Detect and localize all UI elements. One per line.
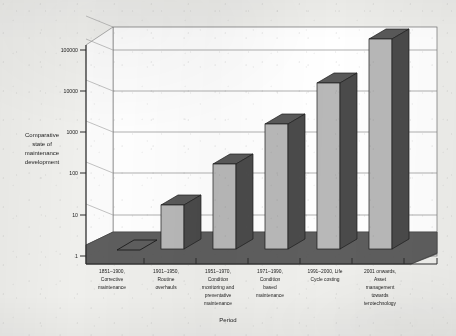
cat-label-line: 1951–1970, [205, 269, 231, 274]
y-tick-label: 100 [69, 170, 78, 176]
cat-label-line: Routine [158, 277, 175, 282]
x-axis-title-text: Period [219, 317, 236, 323]
cat-label-line: Cycle costing [310, 277, 339, 282]
y-tick-label: 10 [72, 212, 78, 218]
y-axis-title-line: state of [32, 141, 52, 147]
bar-column-5[interactable] [317, 73, 357, 249]
cat-label-line: Condition [260, 277, 281, 282]
y-axis-title-line: Comparative [25, 132, 60, 138]
y-tick-label: 1 [75, 253, 78, 259]
x-category-label-1: 1851–1900, Corrective maintenance [98, 269, 126, 290]
cat-label-line: towards [371, 293, 389, 298]
cat-label-line: preventative [205, 293, 232, 298]
bar-chart-3d: 100000 10000 1000 100 10 1 Comparative s… [0, 0, 456, 336]
cat-label-line: overhauls [155, 285, 177, 290]
y-tick-label: 100000 [61, 47, 78, 53]
cat-label-line: 1901–1950, [153, 269, 179, 274]
bar-column-6[interactable] [369, 29, 409, 249]
bar-column-4[interactable] [265, 114, 305, 249]
cat-label-line: maintenance [98, 285, 126, 290]
cat-label-line: management [366, 285, 395, 290]
cat-label-line: maintenance [204, 301, 232, 306]
chart-container: 100000 10000 1000 100 10 1 Comparative s… [0, 0, 456, 336]
cat-label-line: 1851–1900, [99, 269, 125, 274]
x-category-label-5: 1991–2000, Life Cycle costing [307, 269, 342, 282]
cat-label-line: monitoring and [202, 285, 235, 290]
bar-column-3[interactable] [213, 154, 253, 249]
cat-label-line: Asset [374, 277, 387, 282]
y-tick-label: 10000 [64, 88, 79, 94]
plot-side-wall [86, 27, 113, 256]
y-axis-title-line: maintenance [25, 150, 60, 156]
x-category-label-2: 1901–1950, Routine overhauls [153, 269, 179, 290]
x-category-label-4: 1971–1990, Condition based maintenance [256, 269, 284, 298]
cat-label-line: terotechnology [364, 301, 397, 306]
cat-label-line: 1991–2000, Life [307, 269, 342, 274]
y-tick-label: 1000 [66, 129, 78, 135]
cat-label-line: maintenance [256, 293, 284, 298]
x-axis-title: Period [219, 317, 236, 323]
cat-label-line: 1971–1990, [257, 269, 283, 274]
bar-column-2[interactable] [161, 195, 201, 249]
cat-label-line: 2001 onwards, [364, 269, 396, 274]
y-tick-labels: 100000 10000 1000 100 10 1 [61, 47, 78, 259]
y-axis-title-line: development [25, 159, 60, 165]
cat-label-line: Corrective [101, 277, 124, 282]
y-axis [80, 45, 86, 258]
y-axis-title: Comparative state of maintenance develop… [25, 132, 60, 165]
cat-label-line: based [263, 285, 277, 290]
cat-label-line: Condition [208, 277, 229, 282]
x-category-label-3: 1951–1970, Condition monitoring and prev… [202, 269, 235, 306]
x-category-label-6: 2001 onwards, Asset management towards t… [364, 269, 397, 306]
